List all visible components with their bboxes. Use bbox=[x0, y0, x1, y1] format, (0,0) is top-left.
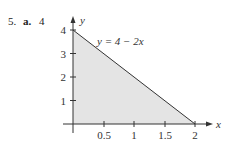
x-axis-arrow-icon bbox=[206, 122, 213, 127]
x-tick-label: 1 bbox=[131, 129, 137, 141]
x-axis-label: x bbox=[215, 118, 221, 130]
y-axis-label: y bbox=[79, 14, 85, 26]
x-tick-label: 1.5 bbox=[158, 129, 172, 141]
y-tick-label: 2 bbox=[61, 71, 67, 83]
y-tick-label: 3 bbox=[61, 48, 67, 60]
x-tick-label: 2 bbox=[192, 129, 198, 141]
y-tick-label: 4 bbox=[61, 24, 67, 36]
x-tick-label: 0.5 bbox=[97, 129, 111, 141]
y-tick-label: 1 bbox=[61, 95, 67, 107]
y-axis-arrow-icon bbox=[71, 16, 76, 23]
area-chart: 0.5 1 1.5 2 1 2 3 4 x y y = 4 − 2x bbox=[0, 0, 229, 143]
curve-equation-label: y = 4 − 2x bbox=[96, 35, 144, 47]
